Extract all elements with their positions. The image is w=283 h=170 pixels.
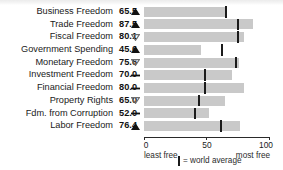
row-label: Fiscal Freedom <box>3 31 113 43</box>
row-plot <box>144 69 270 81</box>
legend: = world average <box>178 155 241 166</box>
row-plot <box>144 108 270 120</box>
trend-down-icon <box>128 95 142 107</box>
chart-rows: Business Freedom65.5Trade Freedom87.5Fis… <box>0 6 283 133</box>
axis-label-least-free: least free <box>144 151 178 160</box>
value-bar <box>144 108 209 118</box>
axis-line <box>144 137 270 138</box>
value-bar <box>144 83 244 93</box>
row-label: Investment Freedom <box>3 69 113 81</box>
row-plot <box>144 31 270 43</box>
value-bar <box>144 32 244 42</box>
row-plot <box>144 82 270 94</box>
world-average-marker <box>220 120 222 132</box>
world-average-marker <box>237 31 239 43</box>
row-plot <box>144 95 270 107</box>
row-label: Labor Freedom <box>3 120 113 132</box>
chart-row: Monetary Freedom75.6 <box>0 57 283 69</box>
row-label: Fdm. from Corruption <box>3 108 113 120</box>
value-bar <box>144 70 232 80</box>
chart-row: Fdm. from Corruption52.0 <box>0 108 283 120</box>
world-average-marker <box>204 69 206 81</box>
row-plot <box>144 19 270 31</box>
world-average-marker <box>198 95 200 107</box>
chart-row: Fiscal Freedom80.1 <box>0 31 283 43</box>
row-plot <box>144 44 270 56</box>
row-plot <box>144 120 270 132</box>
row-label: Government Spending <box>3 44 113 56</box>
world-average-marker <box>235 57 237 69</box>
trend-down-icon <box>128 57 142 69</box>
chart-row: Government Spending45.6 <box>0 44 283 56</box>
row-label: Trade Freedom <box>3 19 113 31</box>
axis-tick-label-100: 100 <box>259 141 273 150</box>
row-label: Business Freedom <box>3 6 113 18</box>
trend-down-icon <box>128 31 142 43</box>
legend-label: = world average <box>183 156 241 166</box>
world-average-marker <box>221 44 223 56</box>
row-label: Property Rights <box>3 95 113 107</box>
world-average-marker <box>225 6 227 18</box>
chart-row: Property Rights65.0 <box>0 95 283 107</box>
world-average-marker <box>204 82 206 94</box>
top-edge-artifact <box>0 0 283 5</box>
chart-row: Financial Freedom80.0 <box>0 82 283 94</box>
world-average-marker-icon <box>178 156 180 166</box>
value-bar <box>144 96 225 106</box>
value-bar <box>144 121 240 131</box>
row-label: Monetary Freedom <box>3 57 113 69</box>
trend-up-icon <box>128 120 142 132</box>
value-bar <box>144 58 239 68</box>
world-average-marker <box>237 19 239 31</box>
trend-flat-icon <box>128 69 142 81</box>
chart-row: Investment Freedom70.0 <box>0 69 283 81</box>
trend-up-icon <box>128 19 142 31</box>
trend-flat-icon <box>128 108 142 120</box>
trend-flat-icon <box>128 82 142 94</box>
row-label: Financial Freedom <box>3 82 113 94</box>
world-average-marker <box>194 108 196 120</box>
chart-row: Labor Freedom76.4 <box>0 120 283 132</box>
economic-freedom-bar-chart: Business Freedom65.5Trade Freedom87.5Fis… <box>0 0 283 170</box>
row-plot <box>144 6 270 18</box>
axis-tick-label-0: 0 <box>144 141 149 150</box>
value-bar <box>144 7 226 17</box>
value-bar <box>144 45 201 55</box>
chart-row: Business Freedom65.5 <box>0 6 283 18</box>
axis-tick-label-50: 50 <box>202 141 211 150</box>
row-plot <box>144 57 270 69</box>
trend-up-icon <box>128 44 142 56</box>
chart-row: Trade Freedom87.5 <box>0 19 283 31</box>
trend-up-icon <box>128 6 142 18</box>
